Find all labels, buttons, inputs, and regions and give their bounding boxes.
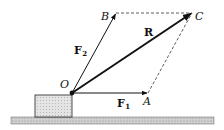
vector-r xyxy=(72,14,191,94)
label-b: B xyxy=(100,10,109,23)
dashed-edge-ac xyxy=(148,13,192,93)
parallelogram-of-forces-diagram: O A B C F1 F2 R xyxy=(0,0,224,130)
label-f1: F1 xyxy=(117,97,130,111)
label-r: R xyxy=(144,26,154,39)
block xyxy=(35,95,72,117)
origin-point xyxy=(70,91,75,96)
ground-surface xyxy=(11,117,214,124)
label-f2: F2 xyxy=(74,44,87,58)
label-c: C xyxy=(195,10,204,23)
label-o: O xyxy=(60,78,69,91)
label-a: A xyxy=(142,95,151,108)
